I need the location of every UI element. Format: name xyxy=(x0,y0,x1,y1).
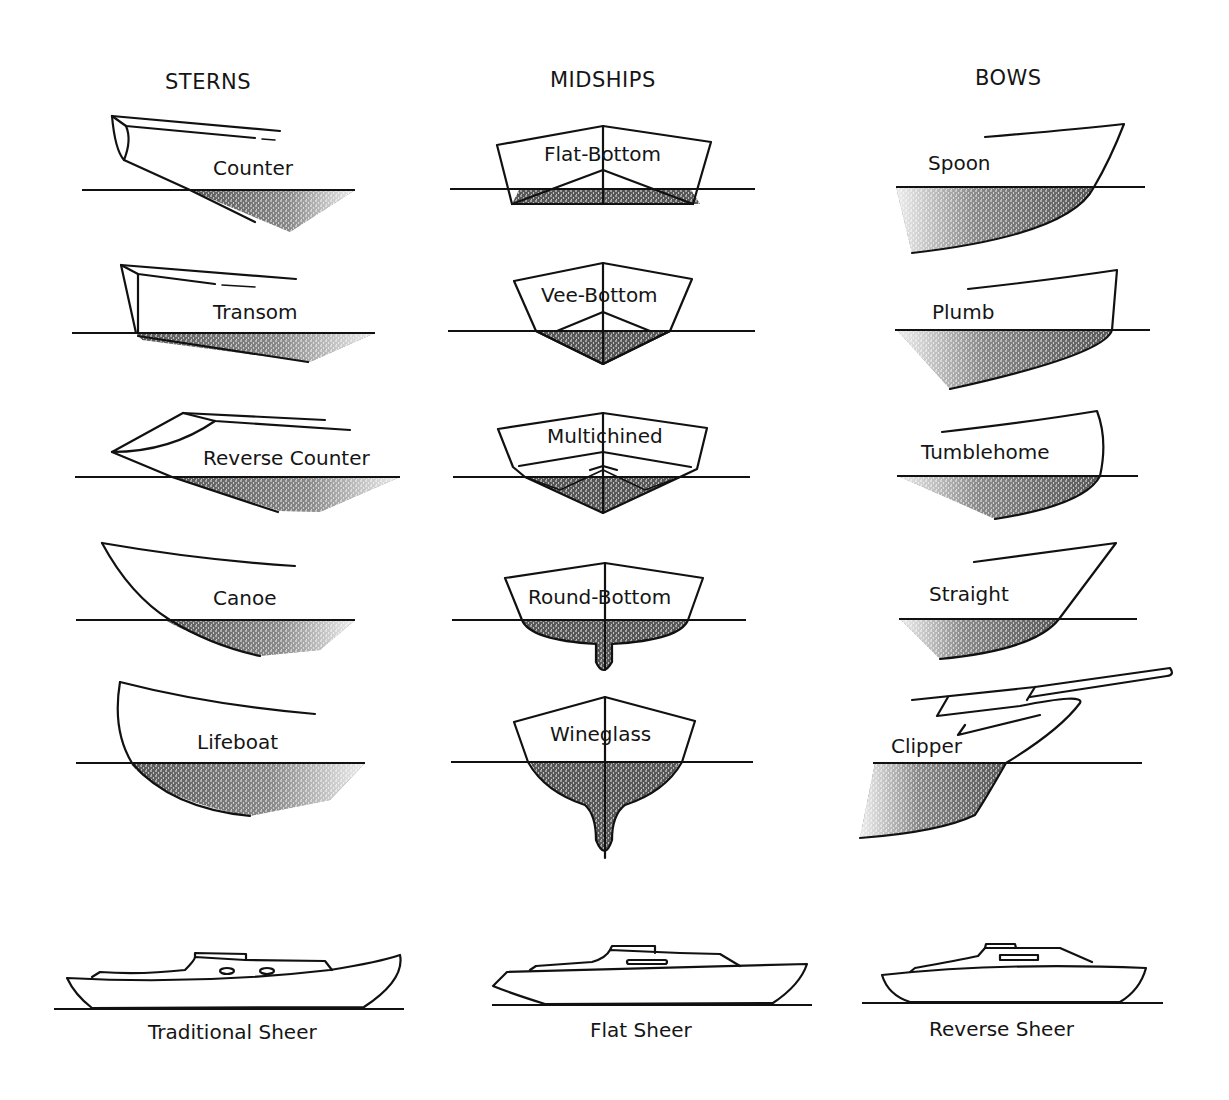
bow-plumb-drawing xyxy=(895,270,1150,389)
bow-tumblehome-drawing xyxy=(897,411,1138,519)
traditional-sheer-drawing xyxy=(54,953,404,1009)
bow-label-tumblehome: Tumblehome xyxy=(921,440,1050,464)
midships-label-wineglass: Wineglass xyxy=(550,722,651,746)
bow-label-spoon: Spoon xyxy=(928,151,991,175)
midships-vee-bottom-drawing xyxy=(448,263,755,364)
column-header-midships: MIDSHIPS xyxy=(550,68,656,92)
stern-label-canoe: Canoe xyxy=(213,586,276,610)
bow-label-straight: Straight xyxy=(929,582,1009,606)
midships-label-round-bottom: Round-Bottom xyxy=(528,585,671,609)
midships-label-multichined: Multichined xyxy=(547,424,663,448)
bow-spoon-drawing xyxy=(896,124,1145,253)
stern-label-transom: Transom xyxy=(213,300,298,324)
midships-label-flat-bottom: Flat-Bottom xyxy=(544,142,661,166)
midships-label-vee-bottom: Vee-Bottom xyxy=(541,283,658,307)
stern-label-counter: Counter xyxy=(213,156,293,180)
stern-label-lifeboat: Lifeboat xyxy=(197,730,278,754)
bow-label-clipper: Clipper xyxy=(891,734,962,758)
flat-sheer-drawing xyxy=(492,946,812,1005)
bow-label-plumb: Plumb xyxy=(932,300,994,324)
caption-reverse-sheer: Reverse Sheer xyxy=(929,1017,1074,1041)
column-header-bows: BOWS xyxy=(975,66,1042,90)
caption-traditional-sheer: Traditional Sheer xyxy=(148,1020,317,1044)
reverse-sheer-drawing xyxy=(862,944,1163,1003)
column-header-sterns: STERNS xyxy=(165,70,251,94)
caption-flat-sheer: Flat Sheer xyxy=(590,1018,692,1042)
stern-label-reverse-counter: Reverse Counter xyxy=(203,446,370,470)
midships-round-bottom-drawing xyxy=(452,563,746,670)
